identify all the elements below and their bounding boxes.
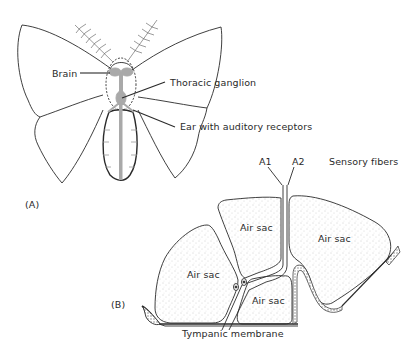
label-sensory-fibers: Sensory fibers — [329, 157, 398, 167]
ear-leader — [133, 110, 175, 127]
label-a1: A1 — [259, 157, 272, 167]
right-hindwing — [138, 108, 207, 178]
label-brain: Brain — [52, 69, 77, 79]
label-thoracic-ganglion: Thoracic ganglion — [170, 78, 256, 88]
label-air-sac-left: Air sac — [187, 270, 220, 280]
label-ear-receptors: Ear with auditory receptors — [180, 122, 312, 132]
left-hindwing — [35, 110, 103, 183]
label-air-sac-right: Air sac — [318, 234, 351, 244]
right-forewing — [132, 27, 222, 108]
label-air-sac-bottom: Air sac — [252, 296, 285, 306]
label-tympanic-membrane: Tympanic membrane — [182, 329, 284, 339]
panel-a-tag: (A) — [25, 200, 39, 210]
air-sac-right-shape — [289, 196, 391, 304]
diagram-artwork — [0, 0, 413, 355]
panel-b-tag: (B) — [111, 300, 125, 310]
label-a2: A2 — [292, 157, 305, 167]
thoracic-leader — [122, 82, 165, 98]
label-air-sac-top: Air sac — [240, 223, 273, 233]
moth-ear-diagram: Brain Thoracic ganglion Ear with auditor… — [0, 0, 413, 355]
left-antenna — [75, 24, 113, 62]
nervous-system — [108, 68, 134, 180]
